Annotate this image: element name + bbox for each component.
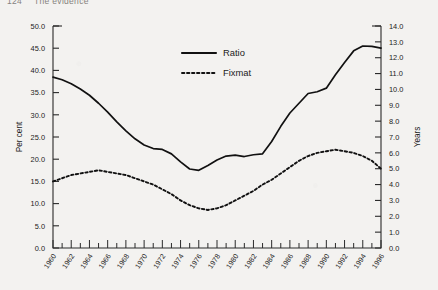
x-axis-tick-label: 1978 <box>206 252 222 270</box>
y-axis-tick-label: 50.0 <box>31 22 45 31</box>
x-axis-tick-label: 1996 <box>370 252 386 270</box>
x-axis-tick-label: 1962 <box>60 252 76 270</box>
x-axis-tick-label: 1964 <box>78 252 94 270</box>
y2-axis-tick-label: 2.0 <box>389 212 399 221</box>
x-axis-tick-label: 1980 <box>224 252 240 270</box>
y-axis-tick-label: 45.0 <box>31 44 45 53</box>
y-axis-tick-label: 25.0 <box>31 133 45 142</box>
page-background: 124The evidence 0.05.010.015.020.025.030… <box>0 0 438 290</box>
x-axis-tick-label: 1974 <box>169 252 185 270</box>
y2-axis-tick-label: 9.0 <box>389 101 399 110</box>
y2-axis-tick-label: 11.0 <box>389 69 403 78</box>
legend-label-fixmat: Fixmat <box>223 67 252 78</box>
y-axis-title: Per cent <box>15 121 24 152</box>
x-axis-tick-label: 1960 <box>42 252 58 270</box>
x-axis-tick-label: 1986 <box>279 252 295 270</box>
y2-axis-tick-label: 5.0 <box>389 164 399 173</box>
x-axis-tick-label: 1972 <box>151 252 167 270</box>
y2-axis-tick-label: 0.0 <box>389 244 399 253</box>
y2-axis-tick-label: 14.0 <box>389 22 403 31</box>
series-line-ratio <box>53 46 381 170</box>
y-axis-tick-label: 30.0 <box>31 111 45 120</box>
y-axis-tick-label: 35.0 <box>31 88 45 97</box>
x-axis-tick-label: 1994 <box>352 252 368 270</box>
line-chart: 0.05.010.015.020.025.030.035.040.045.050… <box>0 0 438 290</box>
y2-axis-tick-label: 3.0 <box>389 196 399 205</box>
x-axis-tick-label: 1970 <box>133 252 149 270</box>
legend-label-ratio: Ratio <box>223 47 245 58</box>
y2-axis-tick-label: 10.0 <box>389 85 403 94</box>
y2-axis-tick-label: 8.0 <box>389 117 399 126</box>
y2-axis-tick-label: 6.0 <box>389 149 399 158</box>
x-axis-tick-label: 1988 <box>297 252 313 270</box>
y2-axis-tick-label: 12.0 <box>389 53 403 62</box>
y2-axis-tick-label: 1.0 <box>389 228 399 237</box>
x-axis-tick-label: 1968 <box>115 252 131 270</box>
x-axis-tick-label: 1966 <box>96 252 112 270</box>
y-axis-tick-label: 0.0 <box>35 244 45 253</box>
y2-axis-tick-label: 13.0 <box>389 38 403 47</box>
y-axis-tick-label: 20.0 <box>31 155 45 164</box>
y-axis-tick-label: 10.0 <box>31 199 45 208</box>
y2-axis-title: Years <box>413 127 422 148</box>
x-axis-tick-label: 1976 <box>188 252 204 270</box>
x-axis-tick-label: 1984 <box>260 252 276 270</box>
y-axis-tick-label: 15.0 <box>31 177 45 186</box>
x-axis-tick-label: 1990 <box>315 252 331 270</box>
y2-axis-tick-label: 7.0 <box>389 133 399 142</box>
y-axis-tick-label: 5.0 <box>35 222 45 231</box>
series-line-fixmat <box>53 150 381 210</box>
y2-axis-tick-label: 4.0 <box>389 180 399 189</box>
y-axis-tick-label: 40.0 <box>31 66 45 75</box>
x-axis-tick-label: 1992 <box>333 252 349 270</box>
x-axis-tick-label: 1982 <box>242 252 258 270</box>
plot-frame <box>53 26 381 248</box>
